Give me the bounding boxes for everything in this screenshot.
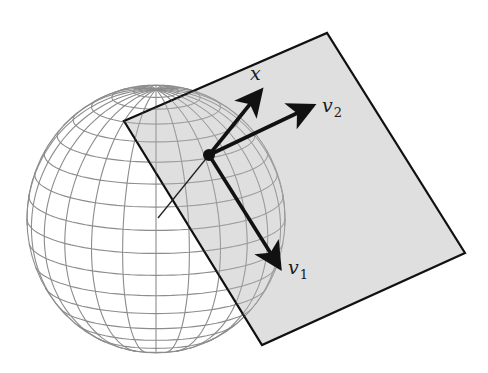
label-x: x (250, 62, 261, 84)
point-x (203, 149, 215, 161)
tangent-plane (124, 33, 465, 345)
tangent-plane-diagram: xv2v1 (0, 0, 488, 373)
